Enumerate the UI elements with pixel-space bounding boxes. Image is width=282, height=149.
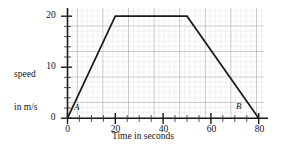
grid-region (67, 8, 264, 118)
y-tick-label-0: 0 (48, 112, 58, 122)
y-axis-title: speed in m/s (14, 47, 38, 135)
x-tick-label-80: 80 (252, 124, 267, 134)
x-tick-label-60: 60 (204, 124, 219, 134)
point-label-b: B (236, 101, 242, 111)
x-tick-label-40: 40 (156, 124, 171, 134)
y-tick-label-20: 20 (44, 10, 58, 20)
x-tick-label-20: 20 (108, 124, 123, 134)
y-tick-label-10: 10 (44, 61, 58, 71)
x-tick-label-0: 0 (62, 124, 73, 134)
point-label-a: A (74, 102, 80, 112)
chart-canvas (0, 0, 282, 149)
grid-fill (67, 8, 264, 118)
speed-time-graph-figure: speed in m/s Time in seconds 20 10 0 0 2… (0, 0, 282, 149)
y-axis-title-line1: speed (14, 69, 38, 80)
y-axis-title-line2: in m/s (14, 102, 38, 113)
